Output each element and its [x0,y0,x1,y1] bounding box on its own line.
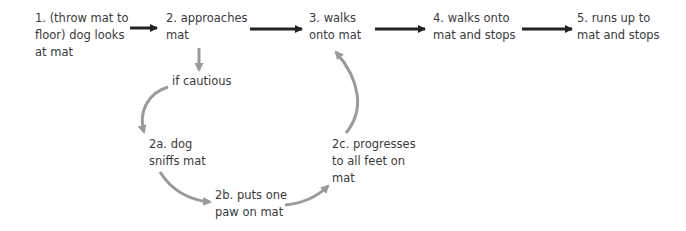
arrow-step2a-to-step2b [160,172,210,202]
arrow-step2c-to-step3 [336,52,358,133]
arrow-step2b-to-step2c [285,186,328,205]
arrow-condition-to-step2a [142,87,168,132]
arrows-layer [0,0,686,231]
